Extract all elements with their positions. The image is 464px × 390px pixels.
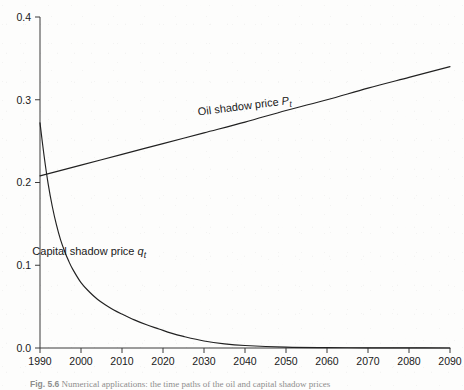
figure-caption: Fig. 5.6 Numerical applications: the tim…	[30, 379, 450, 390]
x-tick-label: 2030	[192, 355, 216, 367]
x-axis-ticks	[40, 348, 450, 353]
x-tick-label: 2090	[438, 355, 462, 367]
y-tick-label: 0.0	[16, 342, 31, 354]
series-annotations: Oil shadow price PtCapital shadow price …	[32, 94, 293, 261]
y-tick-label: 0.4	[16, 11, 31, 23]
x-axis-tick-labels: 1990200020102020203020402050206020702080…	[28, 355, 462, 367]
x-tick-label: 1990	[28, 355, 52, 367]
y-axis-ticks	[35, 17, 40, 348]
figure-caption-text: Numerical applications: the time paths o…	[62, 379, 331, 389]
y-tick-label: 0.3	[16, 94, 31, 106]
x-tick-label: 2060	[315, 355, 339, 367]
chart-plot: 0.00.10.20.30.4 199020002010202020302040…	[0, 0, 464, 390]
x-tick-label: 2000	[69, 355, 93, 367]
y-axis-tick-labels: 0.00.10.20.30.4	[16, 11, 31, 354]
series-label: Oil shadow price Pt	[197, 94, 293, 121]
x-tick-label: 2020	[151, 355, 175, 367]
series-line	[40, 67, 450, 176]
series-line	[40, 123, 450, 348]
x-tick-label: 2010	[110, 355, 134, 367]
figure-container: 0.00.10.20.30.4 199020002010202020302040…	[0, 0, 464, 390]
axes-group	[40, 17, 450, 348]
series-label: Capital shadow price qt	[32, 245, 146, 260]
x-tick-label: 2080	[397, 355, 421, 367]
figure-number: Fig. 5.6	[30, 379, 59, 389]
y-tick-label: 0.2	[16, 176, 31, 188]
x-tick-label: 2040	[233, 355, 257, 367]
x-tick-label: 2070	[356, 355, 380, 367]
x-tick-label: 2050	[274, 355, 298, 367]
y-tick-label: 0.1	[16, 259, 31, 271]
